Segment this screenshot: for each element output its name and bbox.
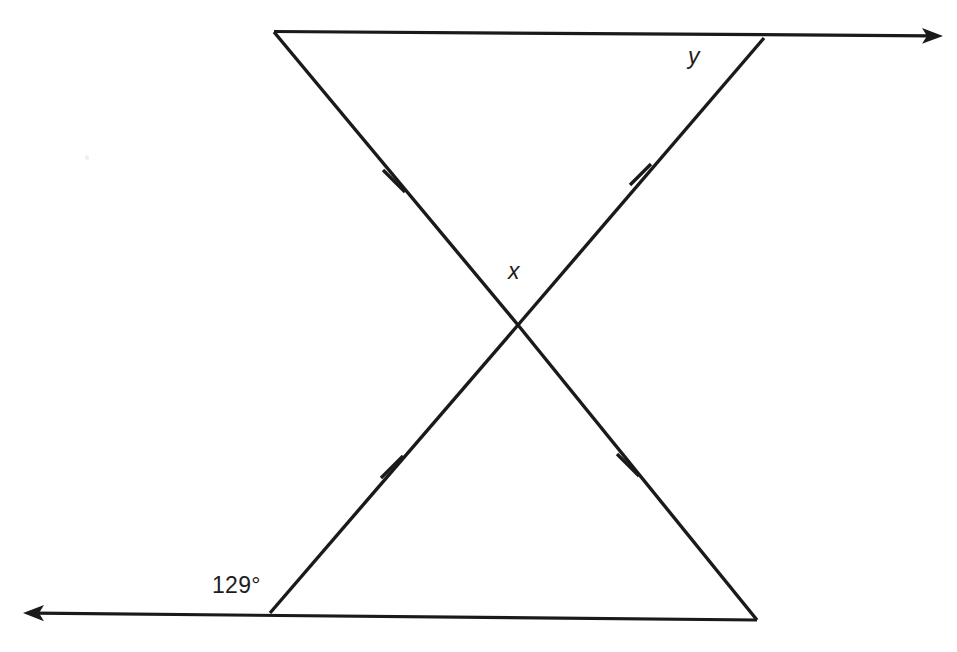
bottom-parallel-ray-line	[36, 613, 757, 620]
scan-artifact-speck	[85, 155, 89, 160]
segment-lower-left	[270, 325, 518, 613]
angle-label-x: x	[508, 258, 520, 285]
geometry-drawing-canvas	[0, 0, 957, 652]
tick-lower-left-icon	[381, 456, 403, 478]
tick-upper-left-icon	[383, 170, 405, 192]
segment-upper-left	[274, 32, 518, 325]
top-parallel-ray-line	[274, 32, 930, 36]
segment-upper-right	[518, 38, 764, 325]
angle-label-y: y	[688, 43, 700, 70]
tick-lower-right-icon	[617, 454, 639, 476]
angle-label-129-degrees: 129°	[212, 572, 261, 599]
geometry-figure: 129° x y	[0, 0, 957, 652]
